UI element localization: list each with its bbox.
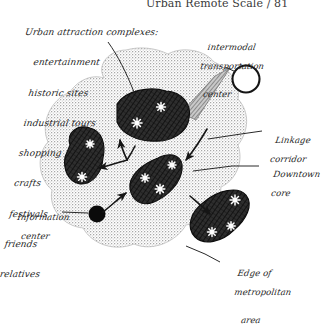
legend-item-relatives: relatives [0, 269, 121, 279]
label-intermodal-line3: center [202, 90, 260, 100]
label-intermodal-line2: transportation [200, 62, 265, 72]
page-header: Urban Remote Scale / 81 [146, 0, 288, 10]
label-edge-of-metropolitan-area: Edge of metropolitan area [215, 259, 296, 328]
legend-item-historic-sites: historic sites [28, 88, 150, 98]
leader-edge [186, 246, 220, 262]
label-information-center: Information center [0, 203, 72, 260]
label-intermodal-transportation-center: intermodal transportation center [185, 33, 269, 119]
label-information-line1: Information [17, 212, 71, 222]
label-edge-line2: metropolitan [234, 288, 292, 298]
label-downtown-line1: Downtown [273, 169, 321, 179]
label-downtown-line2: core [270, 189, 317, 199]
legend-title: Urban attraction complexes: [24, 27, 159, 37]
label-edge-line1: Edge of [237, 268, 272, 278]
label-information-line2: center [20, 232, 67, 242]
legend-item-industrial-tours: industrial tours [23, 118, 145, 128]
label-intermodal-line1: intermodal [207, 42, 257, 52]
label-downtown-core: Downtown core [255, 160, 322, 217]
label-edge-line3: area [240, 316, 287, 326]
label-linkage-line1: Linkage [275, 135, 312, 145]
legend-item-crafts: crafts [13, 178, 135, 188]
legend-item-shopping: shopping [18, 148, 140, 158]
legend-item-entertainment: entertainment [33, 57, 155, 67]
